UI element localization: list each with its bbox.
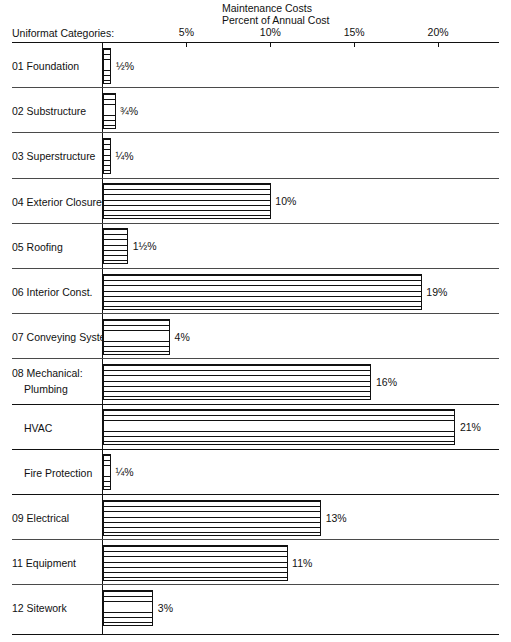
row-category-label: 07 Conveying System	[12, 331, 114, 343]
maintenance-costs-bar-chart: Maintenance Costs Percent of Annual Cost…	[0, 0, 511, 642]
chart-row: 09 Electrical13%	[0, 495, 511, 540]
bar	[103, 48, 111, 84]
bar-value-label: 11%	[292, 557, 312, 569]
bar	[103, 228, 128, 264]
axis-tick-label: 5%	[179, 26, 194, 38]
bar-value-label: ½%	[116, 60, 134, 72]
bar	[103, 454, 111, 490]
chart-row: HVAC21%	[0, 405, 511, 450]
bar-value-label: 13%	[326, 512, 347, 524]
bar	[103, 138, 111, 174]
bar	[103, 183, 271, 219]
chart-subtitle: Percent of Annual Cost	[222, 14, 329, 27]
category-axis-caption: Uniformat Categories:	[12, 27, 114, 40]
bar	[103, 500, 321, 536]
bar	[103, 590, 153, 626]
chart-row: 04 Exterior Closure10%	[0, 179, 511, 224]
bar-value-label: 19%	[426, 286, 447, 298]
chart-row: 01 Foundation½%	[0, 43, 511, 88]
bar-value-label: 4%	[175, 331, 190, 343]
bar-value-label: 21%	[460, 421, 481, 433]
chart-row: 03 Superstructure¼%	[0, 133, 511, 178]
row-category-label: 01 Foundation	[12, 60, 79, 72]
bar	[103, 319, 170, 355]
chart-row: 02 Substructure¾%	[0, 88, 511, 133]
chart-row: Fire Protection¼%	[0, 450, 511, 495]
row-category-label: 04 Exterior Closure	[12, 196, 102, 208]
bar	[103, 93, 116, 129]
bar-value-label: 16%	[376, 376, 397, 388]
chart-title: Maintenance Costs	[222, 2, 312, 15]
row-category-label-line2: Plumbing	[24, 383, 68, 395]
row-category-label: Fire Protection	[24, 467, 92, 479]
bar	[103, 409, 455, 445]
chart-row: 11 Equipment11%	[0, 540, 511, 585]
row-category-label: 12 Sitework	[12, 602, 67, 614]
chart-row: 06 Interior Const.19%	[0, 269, 511, 314]
bar	[103, 274, 422, 310]
row-category-label: 06 Interior Const.	[12, 286, 93, 298]
row-category-label: 02 Substructure	[12, 105, 86, 117]
row-category-label: HVAC	[24, 422, 52, 434]
bar-value-label: ¾%	[120, 105, 138, 117]
bar-value-label: ¼%	[116, 150, 134, 162]
chart-row: 05 Roofing1½%	[0, 224, 511, 269]
chart-row: 07 Conveying System4%	[0, 314, 511, 359]
row-category-label: 11 Equipment	[12, 557, 76, 569]
bar-value-label: ¼%	[116, 466, 134, 478]
row-category-label: 09 Electrical	[12, 512, 69, 524]
chart-row: 12 Sitework3%	[0, 585, 511, 630]
row-category-label: 03 Superstructure	[12, 150, 95, 162]
axis-tick-label: 15%	[344, 26, 365, 38]
bar-value-label: 1½%	[133, 240, 157, 252]
axis-tick-label: 10%	[260, 26, 281, 38]
bar	[103, 545, 288, 581]
bar-value-label: 3%	[158, 602, 173, 614]
plot-bottom-rule	[12, 634, 499, 635]
chart-row: 08 Mechanical:Plumbing16%	[0, 359, 511, 404]
axis-tick-label: 20%	[428, 26, 449, 38]
row-category-label: 05 Roofing	[12, 241, 63, 253]
row-category-label: 08 Mechanical:	[12, 367, 83, 379]
bar	[103, 364, 371, 400]
bar-value-label: 10%	[275, 195, 296, 207]
